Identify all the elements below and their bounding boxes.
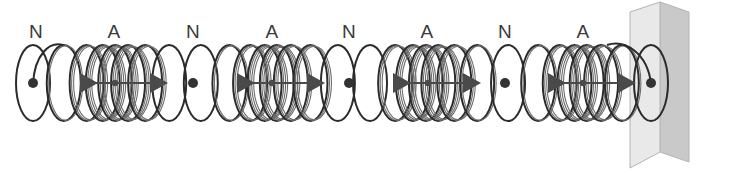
node-dot	[28, 78, 38, 88]
node-dot	[344, 78, 354, 88]
node-label: N	[342, 21, 356, 42]
antinode-label: A	[265, 21, 278, 42]
antinode-label: A	[576, 21, 589, 42]
antinode-label: A	[420, 21, 433, 42]
node-label: N	[186, 21, 200, 42]
node-label: N	[29, 21, 43, 42]
node-dot	[646, 78, 656, 88]
wall-side-face	[660, 2, 689, 162]
spring-coil	[460, 45, 494, 121]
wave-labels: NANANANA	[29, 21, 590, 42]
standing-wave-figure: NANANANA	[0, 0, 742, 179]
node-label: N	[498, 21, 512, 42]
node-dot	[188, 78, 198, 88]
spring-coil-compressed	[49, 46, 83, 121]
node-dot	[500, 78, 510, 88]
antinode-label: A	[107, 21, 120, 42]
spring-standing-wave-diagram: NANANANA	[0, 0, 742, 179]
spring-coil	[47, 45, 81, 121]
spring-coil	[152, 45, 186, 121]
